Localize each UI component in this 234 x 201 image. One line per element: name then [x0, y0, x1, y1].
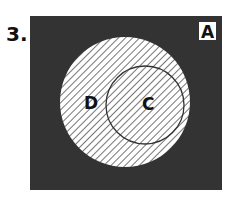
venn-diagram: A D C	[0, 0, 234, 201]
set-c-label: C	[142, 94, 154, 114]
universe-label: A	[201, 22, 215, 42]
set-d-label: D	[84, 93, 98, 113]
